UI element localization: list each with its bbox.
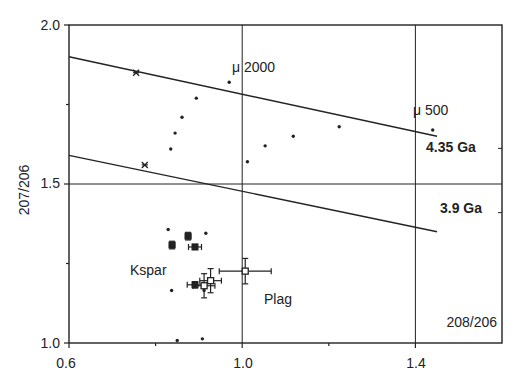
data-point-dot (173, 131, 176, 134)
open-square-marker (242, 268, 248, 274)
kspar-data-point (185, 232, 191, 240)
data-point-dot (180, 116, 183, 119)
data-point-dot (246, 160, 249, 163)
x-tick-label-1.4: 1.4 (406, 355, 426, 371)
asterisk-marker (142, 162, 148, 168)
data-point-dot (176, 339, 179, 342)
isochron-line-3.9-ga (69, 155, 437, 231)
data-point-dot (169, 147, 172, 150)
data-point-dot (292, 135, 295, 138)
kspar-label: Kspar (130, 262, 167, 278)
data-point-dot (195, 96, 198, 99)
filled-square-marker (185, 233, 191, 239)
y-axis-label: 207/206 (16, 164, 32, 215)
open-square-marker (208, 278, 214, 284)
data-point-dot (166, 228, 169, 231)
filled-square-marker (192, 244, 198, 250)
y-tick-label-1.0: 1.0 (41, 335, 61, 351)
kspar-data-point (189, 244, 202, 250)
x-tick-label-0.6: 0.6 (56, 355, 76, 371)
data-point-dot (201, 337, 204, 340)
line-label-3.9-ga: 3.9 Ga (440, 200, 482, 216)
data-point-dot (170, 289, 173, 292)
data-point-dot (228, 81, 231, 84)
x-axis-label: 208/206 (446, 314, 497, 330)
mu-2000-label: μ 2000 (232, 59, 275, 75)
y-tick-label-1.5: 1.5 (41, 175, 61, 191)
data-point-dot (204, 232, 207, 235)
x-tick-label-1.0: 1.0 (233, 355, 253, 371)
filled-square-marker (169, 242, 175, 248)
pb-isotope-scatter-chart: 2.0 1.5 1.0 0.6 1.0 1.4 207/206 208/206 … (0, 0, 514, 383)
data-point-dot (263, 144, 266, 147)
data-points (166, 81, 434, 343)
reference-lines (69, 57, 437, 232)
data-point-dot (337, 125, 340, 128)
kspar-data-point (169, 241, 175, 249)
plag-label: Plag (264, 291, 292, 307)
open-square-marker (201, 283, 207, 289)
line-label-4.35-ga: 4.35 Ga (426, 139, 476, 155)
plag-data-point (219, 258, 271, 283)
mu-500-label: μ 500 (413, 102, 449, 118)
y-tick-label-2.0: 2.0 (41, 17, 61, 33)
data-point-dot (431, 128, 434, 131)
